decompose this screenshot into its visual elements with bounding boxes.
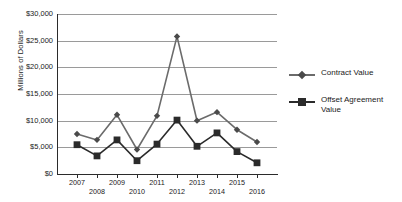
data-point-marker: [74, 141, 81, 148]
x-axis-tick-label: 2009: [100, 179, 134, 187]
data-point-marker: [134, 157, 141, 164]
x-axis-tick-label: 2010: [120, 188, 154, 196]
data-point-marker: [214, 130, 221, 137]
series-line-offset-agreement-value: [77, 120, 257, 163]
legend-item-contract-value[interactable]: Contract Value: [289, 68, 402, 81]
x-axis-tick-label: 2013: [180, 179, 214, 187]
x-axis-tick-label: 2007: [60, 179, 94, 187]
data-point-marker: [174, 33, 180, 39]
legend-item-offset-agreement-value[interactable]: Offset Agreement Value: [289, 95, 402, 115]
line-chart: Millions of Dollars $30,000$25,000$20,00…: [0, 0, 402, 202]
chart-legend: Contract Value Offset Agreement Value: [289, 68, 402, 129]
data-point-marker: [154, 141, 161, 148]
offset-agreement-marker-icon: [289, 96, 315, 108]
x-axis-tick-label: 2011: [140, 179, 174, 187]
data-point-marker: [94, 153, 101, 160]
data-point-marker: [194, 117, 200, 123]
data-point-marker: [74, 131, 80, 137]
legend-label-contract-value: Contract Value: [321, 68, 373, 78]
x-axis-tick-mark: [217, 174, 218, 178]
x-axis-tick-label: 2015: [220, 179, 254, 187]
x-axis-tick-mark: [97, 174, 98, 178]
x-axis-tick-label: 2014: [200, 188, 234, 196]
data-point-marker: [114, 137, 121, 144]
data-point-marker: [254, 159, 261, 166]
x-axis-tick-mark: [137, 174, 138, 178]
x-axis-tick-label: 2008: [80, 188, 114, 196]
x-axis-tick-label: 2016: [240, 188, 274, 196]
legend-label-offset-agreement-value: Offset Agreement Value: [321, 95, 402, 115]
data-point-marker: [194, 143, 201, 150]
data-point-marker: [234, 148, 241, 155]
data-point-marker: [174, 117, 181, 124]
contract-value-marker-icon: [289, 69, 315, 81]
x-axis-tick-mark: [257, 174, 258, 178]
x-axis-tick-mark: [177, 174, 178, 178]
x-axis-tick-label: 2012: [160, 188, 194, 196]
